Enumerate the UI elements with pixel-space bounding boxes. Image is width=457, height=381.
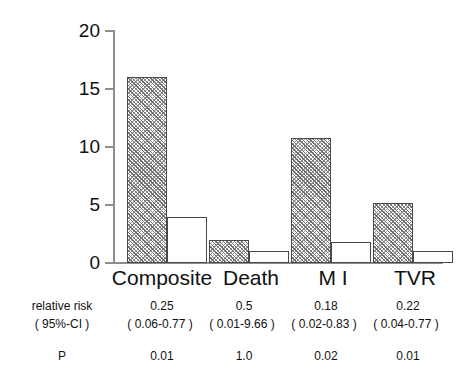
bar-hatched-composite <box>127 77 167 263</box>
ci-mi: ( 0.02-0.83 ) <box>281 316 367 333</box>
y-tick-label-20: 20 <box>52 21 100 40</box>
p-value-composite: 0.01 <box>119 348 205 365</box>
bars-layer <box>113 28 443 263</box>
y-tick-mark-20 <box>105 30 113 32</box>
row-label-confidence-interval: ( 95%-CI ) <box>8 316 116 333</box>
y-tick-label-5: 5 <box>52 195 100 214</box>
y-tick-mark-0 <box>105 262 113 264</box>
bar-open-tvr <box>413 251 453 263</box>
p-value-death: 1.0 <box>201 348 287 365</box>
x-category-label-mi: M I <box>288 266 378 290</box>
bar-hatched-death <box>209 240 249 263</box>
relative-risk-death: 0.5 <box>201 298 287 315</box>
bar-open-mi <box>331 242 371 263</box>
y-tick-label-15: 15 <box>52 79 100 98</box>
ci-death: ( 0.01-9.66 ) <box>199 316 285 333</box>
ci-composite: ( 0.06-0.77 ) <box>117 316 203 333</box>
p-value-tvr: 0.01 <box>365 348 451 365</box>
y-tick-mark-5 <box>105 204 113 206</box>
relative-risk-tvr: 0.22 <box>365 298 451 315</box>
x-category-label-death: Death <box>206 266 296 290</box>
row-label-p: P <box>8 348 116 365</box>
bar-open-composite <box>167 217 207 263</box>
y-tick-mark-15 <box>105 88 113 90</box>
x-category-label-composite: Composite <box>107 266 217 290</box>
statistics-table: relative risk ( 95%-CI ) P 0.25 0.5 0.18… <box>0 292 452 381</box>
y-tick-mark-10 <box>105 146 113 148</box>
p-value-mi: 0.02 <box>283 348 369 365</box>
bar-hatched-tvr <box>373 203 413 263</box>
relative-risk-composite: 0.25 <box>119 298 205 315</box>
bar-open-death <box>249 251 289 263</box>
y-tick-label-0: 0 <box>52 253 100 272</box>
ci-tvr: ( 0.04-0.77 ) <box>363 316 449 333</box>
row-label-relative-risk: relative risk <box>8 298 116 315</box>
relative-risk-mi: 0.18 <box>283 298 369 315</box>
y-tick-label-10: 10 <box>52 137 100 156</box>
bar-hatched-mi <box>291 138 331 263</box>
x-category-label-tvr: TVR <box>370 266 457 290</box>
